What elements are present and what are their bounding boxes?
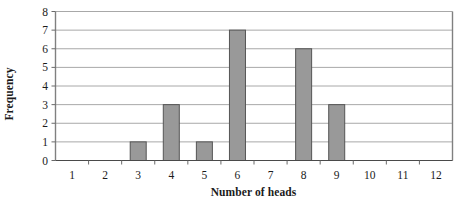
x-tick-label: 4 [156, 169, 186, 181]
x-tick-label: 10 [355, 169, 385, 181]
x-tick-label: 2 [90, 169, 120, 181]
x-tick-label: 5 [189, 169, 219, 181]
x-tick-label: 7 [256, 169, 286, 181]
x-tick-label: 8 [289, 169, 319, 181]
x-tick-label: 9 [322, 169, 352, 181]
x-axis-tick-labels: 123456789101112 [0, 0, 467, 209]
x-tick-label: 3 [123, 169, 153, 181]
x-tick-label: 1 [57, 169, 87, 181]
bar-chart: Frequency 012345678 123456789101112 Numb… [0, 0, 467, 209]
x-axis-title: Number of heads [55, 186, 452, 198]
x-tick-label: 6 [222, 169, 252, 181]
x-tick-label: 12 [421, 169, 451, 181]
x-tick-label: 11 [388, 169, 418, 181]
